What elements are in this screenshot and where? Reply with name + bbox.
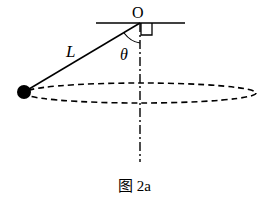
length-label: L xyxy=(65,42,75,61)
angle-arc xyxy=(124,33,140,43)
conical-pendulum-diagram: O L θ 图 2a xyxy=(0,0,271,199)
right-angle-marker xyxy=(141,23,152,35)
pendulum-bob xyxy=(17,85,31,99)
angle-label: θ xyxy=(120,46,128,63)
pivot-label: O xyxy=(132,4,144,21)
figure-caption: 图 2a xyxy=(118,178,151,194)
